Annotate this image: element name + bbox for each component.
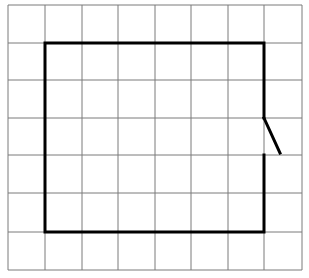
bold-figure — [45, 43, 280, 232]
door-segment — [264, 118, 280, 153]
grid-lines — [8, 5, 302, 270]
grid-diagram — [0, 0, 309, 278]
